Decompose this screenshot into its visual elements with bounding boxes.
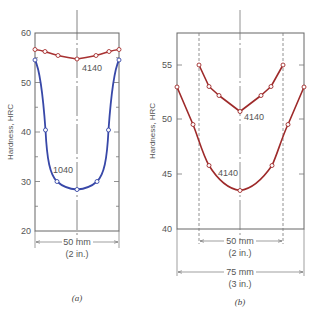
panel-b: 55 50 45 40 Hardness, HRC 4140 4140 50 m…: [148, 10, 306, 307]
panel-b-ytick-50: 50: [162, 114, 172, 124]
panel-b-ytick-45: 45: [162, 169, 172, 179]
panel-b-dim-outer-in: (3 in.): [228, 279, 251, 289]
panel-b-dim-inner-in: (2 in.): [228, 248, 251, 258]
panel-b-label-4140-lower: 4140: [218, 168, 238, 178]
panel-a-ytick-30: 30: [21, 177, 31, 187]
panel-b-curve-4140-75mm: [177, 87, 304, 191]
panel-a-dim-mm: 50 mm: [63, 237, 91, 247]
panel-a-ytick-40: 40: [21, 127, 31, 137]
panel-a-label-1040: 1040: [53, 165, 73, 175]
panel-a-ylabel: Hardness, HRC: [6, 104, 15, 160]
panel-a-dim-in: (2 in.): [65, 249, 88, 259]
panel-a-caption: (a): [72, 293, 83, 303]
panel-a-ytick-20: 20: [21, 226, 31, 236]
panel-b-dim-outer-mm: 75 mm: [226, 267, 254, 277]
panel-a-ytick-50: 50: [21, 78, 31, 88]
panel-b-dim-inner-mm: 50 mm: [226, 236, 254, 246]
hardness-profile-figure: 60 50 40 30 20 Hardness, HRC 4140 1040 5…: [0, 0, 314, 314]
panel-b-ytick-55: 55: [162, 60, 172, 70]
panel-b-caption: (b): [235, 297, 246, 307]
panel-b-ylabel: Hardness, HRC: [148, 103, 157, 159]
panel-b-points-4140-75mm: [175, 85, 306, 193]
panel-b-label-4140-upper: 4140: [244, 112, 264, 122]
panel-b-ytick-40: 40: [162, 224, 172, 234]
panel-a: 60 50 40 30 20 Hardness, HRC 4140 1040 5…: [6, 10, 121, 303]
panel-b-points-4140-50mm: [197, 63, 285, 114]
panel-b-ticks: [177, 65, 304, 174]
panel-a-label-4140: 4140: [82, 63, 102, 73]
panel-a-ytick-60: 60: [21, 28, 31, 38]
